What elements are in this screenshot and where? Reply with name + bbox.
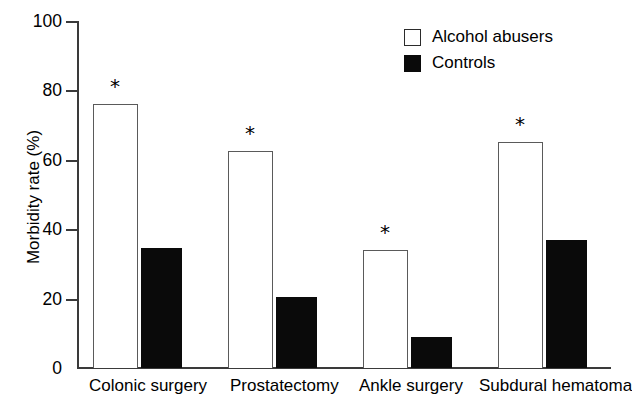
x-category-label-subdural-hematoma: Subdural hematoma <box>479 377 632 395</box>
bar-colonic-surgery-alcohol-abusers <box>93 104 138 368</box>
y-tick-label-60: 60 <box>4 152 62 170</box>
y-tick-label-80: 80 <box>4 82 62 100</box>
y-tick-80: 80 <box>0 82 62 100</box>
y-tick-label-20: 20 <box>4 291 62 309</box>
bar-subdural-hematoma-alcohol-abusers <box>498 142 543 368</box>
y-tick-label-0: 0 <box>4 360 62 378</box>
bar-ankle-surgery-controls <box>411 337 452 368</box>
x-category-label-colonic-surgery: Colonic surgery <box>89 377 207 395</box>
y-tick-mark-40 <box>66 229 77 231</box>
y-tick-20: 20 <box>0 291 62 309</box>
x-category-label-ankle-surgery: Ankle surgery <box>359 377 463 395</box>
bar-prostatectomy-controls <box>276 297 317 368</box>
legend-item-controls: Controls <box>404 50 553 76</box>
significance-star-prostatectomy: * <box>240 123 260 143</box>
bar-subdural-hematoma-controls <box>546 240 587 368</box>
y-tick-100: 100 <box>0 13 62 31</box>
legend-item-alcohol-abusers: Alcohol abusers <box>404 24 553 50</box>
y-tick-40: 40 <box>0 221 62 239</box>
y-tick-60: 60 <box>0 152 62 170</box>
legend: Alcohol abusers Controls <box>404 24 553 76</box>
y-tick-mark-80 <box>66 90 77 92</box>
y-tick-mark-100 <box>66 21 77 23</box>
legend-label-alcohol-abusers: Alcohol abusers <box>432 28 553 46</box>
y-axis-title: Morbidity rate (%) <box>24 67 44 327</box>
y-tick-label-100: 100 <box>4 13 62 31</box>
bar-ankle-surgery-alcohol-abusers <box>363 250 408 368</box>
legend-label-controls: Controls <box>432 54 495 72</box>
y-tick-label-40: 40 <box>4 221 62 239</box>
y-tick-mark-60 <box>66 160 77 162</box>
bar-prostatectomy-alcohol-abusers <box>228 151 273 368</box>
y-tick-0: 0 <box>0 360 62 378</box>
y-tick-mark-20 <box>66 299 77 301</box>
significance-star-ankle-surgery: * <box>375 222 395 242</box>
bar-colonic-surgery-controls <box>141 248 182 368</box>
legend-swatch-filled-square-icon <box>404 55 421 72</box>
significance-star-subdural-hematoma: * <box>510 114 530 134</box>
legend-swatch-open-square-icon <box>404 29 421 46</box>
significance-star-colonic-surgery: * <box>105 76 125 96</box>
x-category-label-prostatectomy: Prostatectomy <box>230 377 339 395</box>
